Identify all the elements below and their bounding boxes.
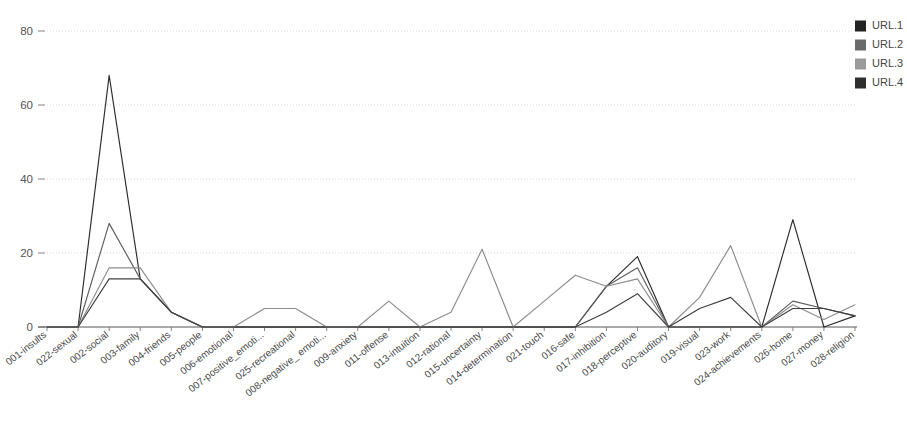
chart-canvas: 020406080 001-insults022-sexual002-socia… [0,0,907,421]
series-line-url-1 [47,75,855,327]
x-axis-tickmarks [47,327,855,331]
legend-swatch [855,40,866,51]
legend-swatch [855,78,866,89]
legend-label: URL.1 [872,19,903,31]
y-tick-label: 40 [20,173,33,185]
legend: URL.1URL.2URL.3URL.4 [855,19,903,88]
y-tick-label: 60 [20,99,33,111]
y-tick-label: 80 [20,25,33,37]
legend-swatch [855,59,866,70]
y-tick-label: 0 [27,321,33,333]
series-line-url-4 [47,279,855,327]
x-axis-labels: 001-insults022-sexual002-social003-famil… [3,328,856,398]
line-chart: 020406080 001-insults022-sexual002-socia… [0,0,907,421]
legend-swatch [855,21,866,32]
series-line-url-3 [47,246,855,327]
legend-label: URL.2 [872,38,903,50]
y-tick-label: 20 [20,247,33,259]
series-group [47,75,855,327]
legend-label: URL.4 [872,76,903,88]
gridlines [38,31,857,327]
y-axis-ticks: 020406080 [20,25,33,333]
legend-label: URL.3 [872,57,903,69]
